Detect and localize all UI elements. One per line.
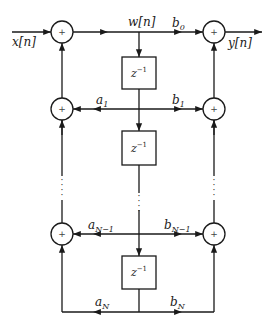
coeff-a1: a1: [96, 94, 108, 109]
coeff-b1: b1: [172, 94, 185, 109]
adder-plus-icon: +: [203, 223, 225, 245]
ellipsis-left: ····: [59, 178, 65, 198]
ellipsis-center: ····: [136, 194, 142, 214]
input-label: x[n]: [12, 36, 36, 48]
adder-plus-icon: +: [51, 21, 73, 43]
delay-label-2: z−1: [122, 142, 156, 154]
coeff-bN: bN: [170, 296, 185, 311]
coeff-aN-1: aN−1: [88, 219, 114, 234]
adder-plus-icon: +: [203, 21, 225, 43]
state-label: w[n]: [128, 16, 155, 28]
coeff-b0: b0: [172, 17, 185, 32]
adder-plus-icon: +: [203, 98, 225, 120]
adder-plus-icon: +: [51, 223, 73, 245]
output-label: y[n]: [228, 37, 252, 49]
ellipsis-right: ····: [211, 178, 217, 198]
coeff-aN: aN: [95, 296, 109, 311]
adder-plus-icon: +: [51, 98, 73, 120]
delay-label-1: z−1: [122, 67, 156, 79]
delay-label-3: z−1: [122, 266, 156, 278]
coeff-bN-1: bN−1: [164, 219, 190, 234]
